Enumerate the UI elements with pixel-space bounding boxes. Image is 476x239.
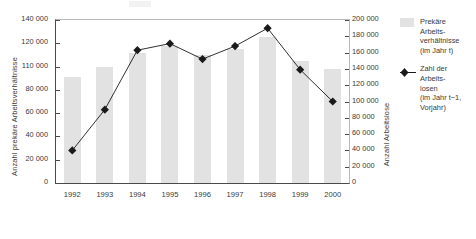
- y-axis-right-label-5: 100 000: [352, 97, 398, 105]
- y-axis-left-label-5: 40 000: [4, 131, 48, 139]
- legend-item-line: Zahl der Arbeits- losen (im Jahr t−1, Vo…: [400, 64, 476, 112]
- y-axis-right-label-6: 80 000: [352, 113, 398, 121]
- line-path: [72, 28, 332, 150]
- cropped-title-artifact: [129, 1, 151, 7]
- data-point-1996: [198, 55, 206, 63]
- y-axis-right-label-1: 180 000: [352, 31, 398, 39]
- y-axis-left-label-0: 140 000: [4, 15, 48, 23]
- y-axis-right-label-0: 200 000: [352, 15, 398, 23]
- diamond-marker-icon: [399, 64, 417, 75]
- data-point-1997: [231, 42, 239, 50]
- chart-page: Anzahl prekäre Arbeitsverhältnisse Anzah…: [0, 0, 476, 239]
- line-series-layer: [56, 20, 349, 183]
- y-axis-right-label-2: 160 000: [352, 48, 398, 56]
- y-axis-left-ticks: 140 000120 000110 00080 00060 00040 0002…: [4, 18, 48, 184]
- y-axis-right-label-3: 140 000: [352, 64, 398, 72]
- data-point-1994: [133, 46, 141, 54]
- y-tick-left-7: [56, 183, 60, 184]
- y-axis-right-label-7: 60 000: [352, 129, 398, 137]
- y-axis-left-label-1: 120 000: [4, 38, 48, 46]
- x-axis-label-2000: 2000: [313, 190, 353, 199]
- y-axis-right-label-10: 0: [352, 178, 398, 186]
- y-axis-left-label-3: 80 000: [4, 85, 48, 93]
- y-axis-left-label-6: 20 000: [4, 155, 48, 163]
- y-axis-right-label-4: 120 000: [352, 80, 398, 88]
- chart-legend: Prekäre Arbeits- verhältnisse (im Jahr t…: [400, 17, 476, 121]
- legend-item-bar: Prekäre Arbeits- verhältnisse (im Jahr t…: [400, 17, 476, 55]
- legend-item-line-label: Zahl der Arbeits- losen (im Jahr t−1, Vo…: [420, 64, 476, 112]
- y-axis-left-label-7: 0: [4, 178, 48, 186]
- y-axis-left-label-2: 110 000: [4, 62, 48, 70]
- y-axis-left-label-4: 60 000: [4, 108, 48, 116]
- plot-area: [55, 19, 350, 184]
- y-axis-right-label-9: 20 000: [352, 162, 398, 170]
- data-point-1995: [166, 40, 174, 48]
- y-axis-right-label-8: 40 000: [352, 145, 398, 153]
- y-tick-right-10: [345, 183, 349, 184]
- bar-swatch-icon: [400, 18, 414, 27]
- y-axis-right-ticks: 200 000180 000160 000140 000120 000100 0…: [352, 18, 398, 184]
- legend-item-bar-label: Prekäre Arbeits- verhältnisse (im Jahr t…: [420, 17, 476, 55]
- data-point-1998: [264, 24, 272, 32]
